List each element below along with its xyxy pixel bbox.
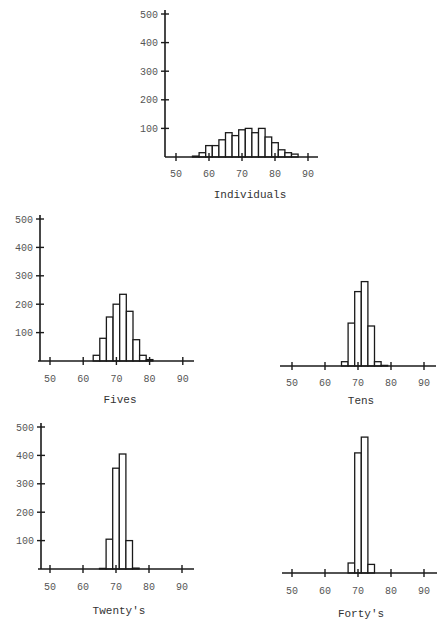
- chart-title: Forty's: [338, 608, 384, 620]
- x-tick-label: 60: [203, 169, 215, 180]
- x-tick-label: 50: [170, 169, 182, 180]
- y-tick-label: 200: [16, 508, 34, 519]
- histogram-bar: [120, 294, 127, 361]
- y-tick-label: 300: [140, 67, 158, 78]
- x-tick-label: 90: [418, 586, 430, 597]
- y-tick-label: 100: [15, 328, 33, 339]
- x-tick-label: 50: [44, 374, 56, 385]
- y-tick-label: 100: [16, 536, 34, 547]
- histogram-bar: [361, 437, 368, 573]
- chart-fives: 5060708090100200300400500Fives: [15, 215, 194, 407]
- histogram-bar: [106, 317, 113, 361]
- x-tick-label: 80: [143, 582, 155, 593]
- x-tick-label: 90: [177, 374, 189, 385]
- x-tick-label: 50: [286, 378, 298, 389]
- histogram-bar: [355, 453, 362, 573]
- histogram-bar: [368, 326, 375, 366]
- histogram-bar: [219, 140, 226, 157]
- chart-twentys: 5060708090100200300400500Twenty's: [16, 423, 194, 618]
- y-tick-label: 200: [15, 300, 33, 311]
- y-tick-label: 500: [140, 10, 158, 21]
- x-tick-label: 70: [236, 169, 248, 180]
- histogram-bar: [245, 128, 252, 157]
- histogram-bar: [100, 338, 107, 361]
- y-tick-label: 400: [16, 451, 34, 462]
- x-tick-label: 90: [418, 378, 430, 389]
- y-tick-label: 400: [140, 38, 158, 49]
- histogram-bar: [368, 564, 375, 573]
- chart-tens: 5060708090Tens: [280, 282, 436, 407]
- y-tick-label: 300: [16, 479, 34, 490]
- chart-individuals: 5060708090100200300400500Individuals: [140, 10, 318, 202]
- y-tick-label: 400: [15, 243, 33, 254]
- histogram-bar: [355, 292, 362, 366]
- x-tick-label: 50: [286, 586, 298, 597]
- chart-title: Individuals: [214, 189, 287, 201]
- x-tick-label: 80: [269, 169, 281, 180]
- y-tick-label: 500: [15, 215, 33, 226]
- y-tick-label: 300: [15, 271, 33, 282]
- histogram-bar: [278, 150, 285, 157]
- histogram-figure: 5060708090100200300400500Individuals 506…: [0, 0, 445, 626]
- x-tick-label: 90: [302, 169, 314, 180]
- x-tick-label: 60: [319, 586, 331, 597]
- histogram-bar: [126, 541, 133, 569]
- histogram-bar: [113, 304, 120, 361]
- histogram-bar: [348, 323, 355, 366]
- x-tick-label: 60: [77, 374, 89, 385]
- histogram-bar: [113, 468, 120, 569]
- x-tick-label: 70: [110, 374, 122, 385]
- x-tick-label: 70: [352, 378, 364, 389]
- x-tick-label: 60: [319, 378, 331, 389]
- histogram-bar: [126, 311, 133, 361]
- histogram-bar: [119, 454, 126, 569]
- histogram-bar: [133, 340, 140, 361]
- histogram-bar: [106, 539, 113, 569]
- histogram-bar: [140, 355, 147, 361]
- x-tick-label: 80: [385, 586, 397, 597]
- chart-fortys: 5060708090Forty's: [282, 437, 437, 620]
- x-tick-label: 90: [176, 582, 188, 593]
- x-tick-label: 70: [110, 582, 122, 593]
- x-tick-label: 60: [77, 582, 89, 593]
- y-tick-label: 200: [140, 95, 158, 106]
- x-tick-label: 70: [352, 586, 364, 597]
- histogram-bar: [259, 128, 266, 157]
- histogram-bar: [252, 133, 259, 157]
- chart-title: Tens: [348, 395, 374, 407]
- histogram-bar: [239, 130, 246, 157]
- histogram-bar: [348, 563, 355, 573]
- y-tick-label: 100: [140, 124, 158, 135]
- histogram-bar: [93, 355, 100, 361]
- histogram-bar: [212, 146, 219, 157]
- histogram-bar: [265, 137, 272, 157]
- x-tick-label: 80: [144, 374, 156, 385]
- histogram-bar: [226, 133, 233, 157]
- histogram-bar: [361, 282, 368, 366]
- chart-title: Twenty's: [93, 605, 146, 617]
- x-tick-label: 80: [385, 378, 397, 389]
- histogram-bar: [232, 136, 239, 157]
- y-tick-label: 500: [16, 423, 34, 434]
- chart-title: Fives: [103, 394, 136, 406]
- x-tick-label: 50: [44, 582, 56, 593]
